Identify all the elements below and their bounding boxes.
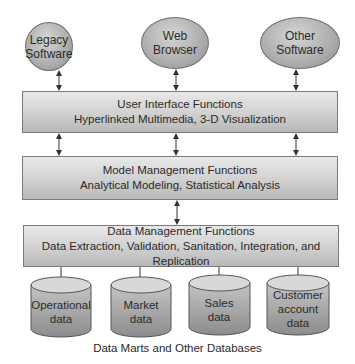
database-label: Operational data: [30, 292, 92, 332]
database-label-line: Market: [123, 298, 158, 312]
database-customer-account-data: Customer account data: [266, 274, 330, 336]
layer-title: User Interface Functions: [117, 97, 242, 112]
database-label-line: Operational: [31, 298, 90, 312]
database-label-line: Customer: [273, 288, 323, 302]
external-system-legacy-software: Legacy Software: [25, 22, 73, 71]
layer-user-interface: User Interface Functions Hyperlinked Mul…: [22, 91, 338, 133]
external-system-label: Software: [276, 43, 323, 57]
external-system-label: Web: [163, 29, 187, 43]
database-label: Customer account data: [266, 288, 330, 330]
layer-subtitle: Analytical Modeling, Statistical Analysi…: [80, 178, 280, 193]
layer-model-management: Model Management Functions Analytical Mo…: [22, 156, 338, 200]
database-label-line: data: [50, 312, 72, 326]
layer-subtitle: Data Extraction, Validation, Sanitation,…: [24, 239, 338, 269]
external-system-label: Other: [285, 29, 315, 43]
diagram-caption: Data Marts and Other Databases: [0, 342, 355, 354]
database-label-line: Sales: [205, 296, 234, 310]
database-market-data: Market data: [110, 276, 172, 338]
external-system-web-browser: Web Browser: [141, 17, 209, 69]
database-label-line: account: [278, 302, 318, 316]
layer-subtitle: Hyperlinked Multimedia, 3-D Visualizatio…: [74, 112, 286, 127]
database-label: Sales data: [188, 290, 250, 330]
database-label-line: data: [287, 316, 309, 330]
database-sales-data: Sales data: [188, 274, 250, 336]
external-system-label: Browser: [153, 43, 197, 57]
layer-title: Model Management Functions: [103, 163, 258, 178]
external-system-label: Legacy: [30, 33, 69, 47]
layer-title: Data Management Functions: [107, 224, 255, 239]
database-label-line: data: [208, 310, 230, 324]
database-label: Market data: [110, 292, 172, 332]
external-system-other-software: Other Software: [260, 17, 340, 69]
database-label-line: data: [130, 312, 152, 326]
database-operational-data: Operational data: [30, 276, 92, 338]
external-system-label: Software: [25, 47, 72, 61]
architecture-diagram: Legacy Software Web Browser Other Softwa…: [0, 0, 355, 364]
layer-data-management: Data Management Functions Data Extractio…: [23, 225, 339, 267]
